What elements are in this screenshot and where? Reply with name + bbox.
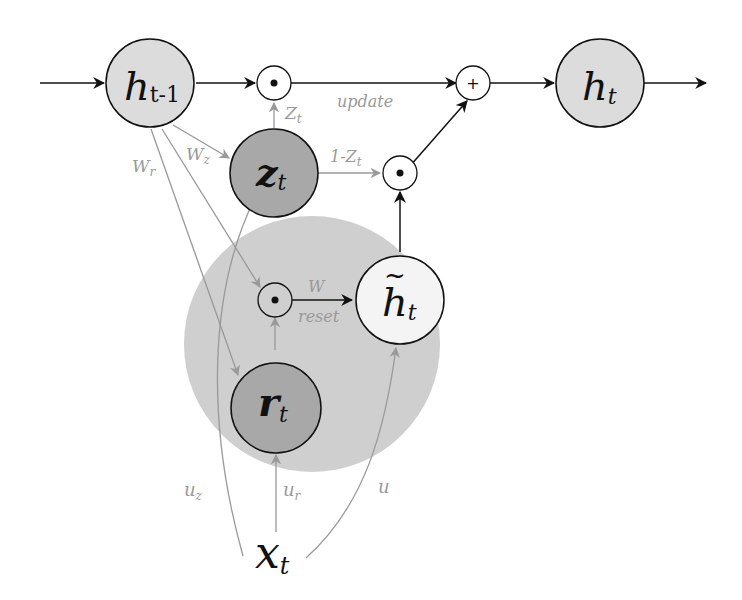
label-wr: Wr <box>132 156 156 179</box>
label-wz: Wz <box>186 144 210 167</box>
mult-operator-mid <box>383 156 417 190</box>
svg-text:xt: xt <box>255 527 290 580</box>
node-h-t: ht <box>556 39 644 127</box>
label-reset: reset <box>298 307 340 326</box>
svg-text:+: + <box>466 74 479 93</box>
label-uz: uz <box>184 479 203 503</box>
node-r-t: rt <box>231 363 321 453</box>
node-x-t: xt <box>255 527 290 580</box>
plus-operator: + <box>456 66 490 100</box>
label-one-minus-zt: 1-Zt <box>330 147 362 169</box>
label-zt: Zt <box>284 103 302 126</box>
node-h-prev: ht-1 <box>106 39 194 127</box>
gru-diagram: ht-1 ht zt rt ht ~ xt + Wr Wz Zt 1-Zt <box>0 0 742 600</box>
edge-midmult-to-plus <box>410 101 467 166</box>
node-z-t: zt <box>230 129 318 217</box>
svg-text:~: ~ <box>384 260 406 290</box>
node-h-tilde: ht ~ <box>356 256 444 344</box>
mult-operator-top <box>257 66 291 100</box>
label-u: u <box>378 476 390 497</box>
label-update: update <box>337 92 393 111</box>
label-ur: ur <box>283 479 302 503</box>
label-w: W <box>308 277 326 296</box>
